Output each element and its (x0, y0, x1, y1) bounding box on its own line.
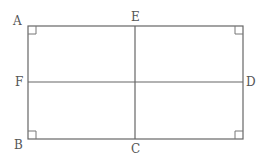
label-e: E (131, 10, 140, 24)
right-angle-marker-a (28, 26, 36, 34)
label-d: D (246, 75, 256, 89)
right-angle-marker-top-right (235, 26, 243, 34)
label-b: B (14, 138, 23, 152)
right-angle-marker-b (28, 131, 36, 139)
label-a: A (12, 14, 22, 28)
label-f: F (15, 75, 23, 89)
geometry-figure: A E F D B C (0, 0, 264, 164)
right-angle-marker-bottom-right (235, 131, 243, 139)
label-c: C (131, 142, 140, 156)
